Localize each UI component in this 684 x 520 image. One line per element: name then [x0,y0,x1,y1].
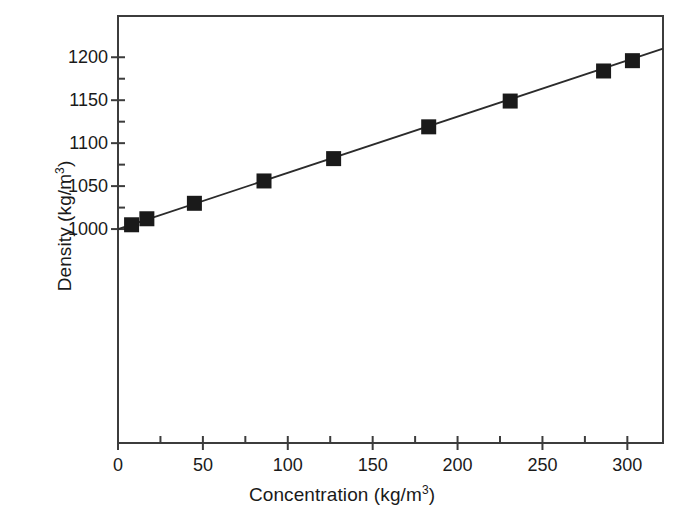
data-point-marker-7 [596,63,611,78]
y-tick-label-1050: 1050 [40,176,108,197]
density-vs-concentration-plot [0,0,684,520]
data-point-marker-4 [326,151,341,166]
data-point-marker-6 [503,94,518,109]
plot-frame [118,16,663,443]
x-tick-label-200: 200 [443,455,473,476]
x-tick-label-150: 150 [358,455,388,476]
y-tick-label-1000: 1000 [40,219,108,240]
data-point-marker-3 [257,173,272,188]
x-tick-label-100: 100 [273,455,303,476]
data-point-markers [124,53,640,232]
data-point-marker-8 [625,53,640,68]
x-tick-label-50: 50 [193,455,213,476]
data-point-marker-1 [139,211,154,226]
x-tick-label-0: 0 [113,455,123,476]
x-tick-label-250: 250 [527,455,557,476]
data-point-marker-0 [124,217,139,232]
data-point-marker-2 [187,196,202,211]
data-point-marker-5 [421,119,436,134]
x-axis-title-text: Concentration (kg/m [249,484,422,505]
y-axis-title-tail: ) [54,161,75,167]
x-axis-title: Concentration (kg/m3) [0,484,684,506]
x-tick-label-300: 300 [612,455,642,476]
y-tick-label-1100: 1100 [40,133,108,154]
y-tick-label-1150: 1150 [40,90,108,111]
y-tick-label-1200: 1200 [40,47,108,68]
x-axis-title-tail: ) [429,484,435,505]
chart-figure: Density (kg/m3) Concentration (kg/m3) 10… [0,0,684,520]
y-axis-title-superscript: 3 [53,167,67,174]
x-axis-title-superscript: 3 [422,483,429,497]
